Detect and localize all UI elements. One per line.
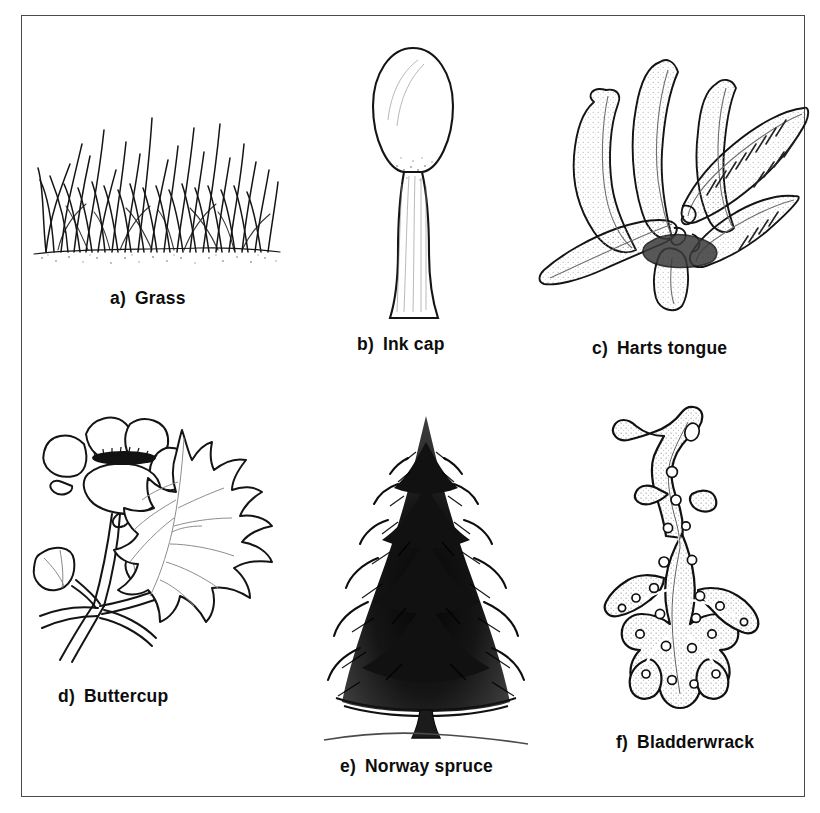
caption-label-c: Harts tongue <box>617 338 727 358</box>
caption-label-b: Ink cap <box>383 334 445 354</box>
figure-ink-cap <box>352 44 472 322</box>
caption-bladderwrack: f)Bladderwrack <box>616 732 754 753</box>
norway-spruce-tree-icon <box>324 416 528 744</box>
caption-grass: a)Grass <box>110 288 186 309</box>
caption-index-a: a) <box>110 288 126 309</box>
caption-index-b: b) <box>357 334 374 355</box>
sepal-left <box>50 481 72 495</box>
bladderwrack-seaweed-icon <box>605 407 759 708</box>
grass-ground-speckle <box>41 254 277 264</box>
caption-label-d: Buttercup <box>84 686 168 706</box>
figure-grass <box>28 84 284 264</box>
grass-tuft-icon <box>34 118 280 254</box>
wrack-arm-right-upper <box>690 491 716 512</box>
caption-ink-cap: b)Ink cap <box>357 334 445 355</box>
ink-cap-cap <box>373 48 453 172</box>
caption-index-f: f) <box>616 732 628 753</box>
figure-bladderwrack <box>600 402 768 720</box>
caption-label-a: Grass <box>135 288 186 308</box>
caption-index-e: e) <box>340 756 356 777</box>
petal-left <box>43 436 86 477</box>
figure-norway-spruce <box>320 412 532 750</box>
harts-tongue-fern-icon <box>540 60 809 310</box>
figure-buttercup <box>26 408 290 664</box>
caption-label-e: Norway spruce <box>365 756 493 776</box>
caption-norway-spruce: e)Norway spruce <box>340 756 493 777</box>
ink-cap-mushroom-icon <box>373 48 453 318</box>
caption-label-f: Bladderwrack <box>637 732 754 752</box>
caption-harts-tongue: c)Harts tongue <box>592 338 727 359</box>
caption-index-c: c) <box>592 338 608 359</box>
caption-buttercup: d)Buttercup <box>58 686 168 707</box>
figure-harts-tongue <box>532 46 810 314</box>
caption-index-d: d) <box>58 686 75 707</box>
illustration-plate: a)Grass <box>0 0 820 813</box>
frond-upper-mid <box>633 60 678 239</box>
